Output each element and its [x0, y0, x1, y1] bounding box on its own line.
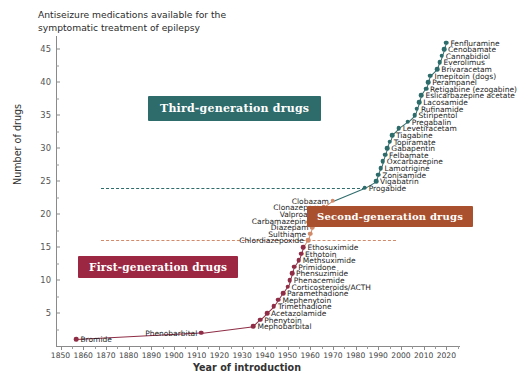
y-axis-label: Number of drugs [12, 104, 23, 185]
x-tick-mark [265, 346, 266, 350]
y-tick-label-30: 30 [40, 143, 51, 153]
x-tick-label-1870: 1870 [96, 351, 115, 360]
y-tick-mark [56, 247, 60, 248]
x-tick-minor [95, 346, 96, 349]
x-tick-minor [253, 346, 254, 349]
x-tick-label-1920: 1920 [210, 351, 229, 360]
data-point-phenobarbital[interactable] [199, 331, 204, 336]
data-point-cannabidiol[interactable] [440, 53, 445, 58]
x-tick-label-1860: 1860 [74, 351, 93, 360]
guide-line-y24 [101, 188, 364, 189]
data-point-clobazam[interactable] [331, 199, 336, 204]
y-tick-mark [56, 280, 60, 281]
data-point-cenobamate[interactable] [442, 47, 447, 52]
data-point-phenytoin[interactable] [258, 317, 263, 322]
series-segment [201, 326, 253, 334]
data-point-bromide[interactable] [74, 337, 79, 342]
y-tick-mark [56, 82, 60, 83]
data-point-vigabatrin[interactable] [374, 179, 379, 184]
data-point-retigabine-ezogabine[interactable] [424, 86, 429, 91]
x-tick-minor [140, 346, 141, 349]
banner-first-generation: First-generation drugs [78, 256, 238, 278]
y-tick-mark [56, 148, 60, 149]
x-tick-mark [129, 346, 130, 350]
x-tick-label-1950: 1950 [278, 351, 297, 360]
y-tick-mark [56, 181, 60, 182]
data-point-imepitoin-dogs[interactable] [428, 73, 433, 78]
x-tick-label-1930: 1930 [232, 351, 251, 360]
data-point-ethotoin[interactable] [299, 251, 304, 256]
x-tick-label-1910: 1910 [187, 351, 206, 360]
data-point-topiramate[interactable] [387, 139, 392, 144]
x-tick-label-1980: 1980 [346, 351, 365, 360]
y-tick-minor [56, 230, 59, 231]
x-tick-mark [310, 346, 311, 350]
data-point-methsuximide[interactable] [297, 258, 302, 263]
banner-third-generation: Third-generation drugs [148, 96, 321, 121]
data-point-phenacemide[interactable] [287, 278, 292, 283]
data-point-acetazolamide[interactable] [265, 311, 270, 316]
data-point-chlordiazepoxide[interactable] [306, 238, 311, 243]
data-point-eslicarbazepine-acetate[interactable] [419, 93, 424, 98]
x-tick-mark [401, 346, 402, 350]
x-tick-label-2010: 2010 [414, 351, 433, 360]
data-point-brivaracetam[interactable] [435, 67, 440, 72]
data-point-sulthiame[interactable] [308, 232, 313, 237]
x-tick-mark [151, 346, 152, 350]
data-point-lamotrigine[interactable] [378, 166, 383, 171]
x-axis-label: Year of introduction [0, 362, 494, 373]
data-point-perampanel[interactable] [426, 80, 431, 85]
data-point-rufinamide[interactable] [415, 106, 420, 111]
y-tick-label-20: 20 [40, 209, 51, 219]
y-tick-mark [56, 214, 60, 215]
x-tick-minor [231, 346, 232, 349]
data-point-ethosuximide[interactable] [301, 245, 306, 250]
data-point-levetiracetam[interactable] [396, 126, 401, 131]
y-tick-mark [56, 49, 60, 50]
data-point-everolimus[interactable] [437, 60, 442, 65]
data-point-primidone[interactable] [292, 265, 297, 270]
x-tick-mark [174, 346, 175, 350]
x-tick-mark [219, 346, 220, 350]
data-point-oxcarbazepine[interactable] [381, 159, 386, 164]
data-point-mephobarbital[interactable] [251, 324, 256, 329]
x-tick-mark [356, 346, 357, 350]
data-point-stiripentol[interactable] [412, 113, 417, 118]
data-point-tiagabine[interactable] [390, 133, 395, 138]
data-point-gabapentin[interactable] [385, 146, 390, 151]
data-point-felbamate[interactable] [383, 152, 388, 157]
data-point-phensuzimide[interactable] [290, 271, 295, 276]
x-tick-minor [435, 346, 436, 349]
data-point-trimethadione[interactable] [272, 304, 277, 309]
data-point-paramethadione[interactable] [281, 291, 286, 296]
y-tick-minor [56, 98, 59, 99]
data-label-fenfluramine: Fenfluramine [450, 38, 499, 47]
x-tick-minor [185, 346, 186, 349]
data-label-ethosuximide: Ethosuximide [307, 243, 358, 252]
data-point-corticosteroids-acth[interactable] [285, 284, 290, 289]
x-tick-label-2020: 2020 [437, 351, 456, 360]
data-point-mephenytoin[interactable] [276, 298, 281, 303]
x-tick-minor [412, 346, 413, 349]
x-tick-minor [72, 346, 73, 349]
x-tick-minor [390, 346, 391, 349]
data-point-fenfluramine[interactable] [444, 40, 449, 45]
x-tick-mark [197, 346, 198, 350]
x-tick-mark [83, 346, 84, 350]
data-point-pregabalin[interactable] [406, 119, 411, 124]
data-point-lacosamide[interactable] [417, 100, 422, 105]
x-tick-label-1940: 1940 [255, 351, 274, 360]
data-point-zonisamide[interactable] [376, 172, 381, 177]
y-tick-minor [56, 197, 59, 198]
x-tick-label-1990: 1990 [369, 351, 388, 360]
y-tick-label-10: 10 [40, 275, 51, 285]
x-tick-label-1850: 1850 [51, 351, 70, 360]
x-tick-minor [344, 346, 345, 349]
banner-second-generation: Second-generation drugs [307, 206, 473, 227]
data-point-progabide[interactable] [362, 185, 367, 190]
y-tick-label-45: 45 [40, 44, 51, 54]
y-tick-minor [56, 65, 59, 66]
data-label-phenobarbital: Phenobarbital [145, 328, 197, 337]
x-tick-label-1900: 1900 [164, 351, 183, 360]
